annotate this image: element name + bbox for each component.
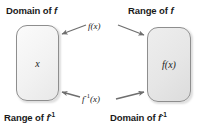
forward-arrow-label: f(x)	[88, 20, 101, 31]
range-box-content: f(x)	[162, 59, 176, 70]
label-range-of-f-inverse: Range of f-1	[4, 112, 55, 123]
inverse-arrow-label-suffix: (x)	[90, 94, 100, 104]
forward-arrow-left-segment	[62, 25, 86, 34]
label-range-of-f-text: Range of	[128, 5, 170, 16]
forward-arrow-right-segment	[118, 25, 144, 35]
label-domain-of-f-inverse: Domain of f-1	[110, 112, 167, 123]
label-domain-of-f-symbol: f	[54, 5, 57, 16]
label-range-of-f-inverse-text: Range of	[4, 112, 46, 123]
label-range-of-f: Range of f	[128, 6, 173, 16]
function-inverse-diagram: Domain of f Range of f Range of f-1 Doma…	[0, 0, 206, 131]
label-domain-of-f-inverse-text: Domain of	[110, 112, 158, 123]
label-range-of-f-symbol: f	[170, 5, 173, 16]
domain-set-box: x	[16, 25, 59, 101]
label-range-of-f-inverse-superscript: -1	[49, 111, 55, 118]
range-set-box: f(x)	[147, 27, 191, 102]
label-domain-of-f: Domain of f	[6, 6, 57, 16]
inverse-arrow-right-segment	[116, 92, 144, 99]
label-domain-of-f-text: Domain of	[6, 5, 54, 16]
label-domain-of-f-inverse-superscript: -1	[161, 111, 167, 118]
inverse-arrow-label: f-1(x)	[82, 93, 100, 104]
forward-arrow-label-suffix: (x)	[91, 21, 101, 31]
domain-box-content: x	[35, 58, 39, 69]
inverse-arrow-left-segment	[62, 92, 80, 97]
